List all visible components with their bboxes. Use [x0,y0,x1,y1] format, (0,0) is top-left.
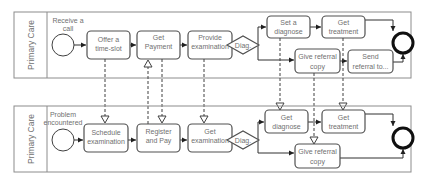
svg-text:Get: Get [338,19,349,26]
msg-arrowhead-schedule [101,116,109,123]
task-register-and-pay[interactable]: Register and Pay [137,124,180,152]
svg-text:Send: Send [362,53,378,60]
svg-text:copy: copy [310,158,325,166]
svg-text:Diag.: Diag. [235,42,251,50]
task-send-referral[interactable]: Send referral to... [348,50,393,73]
svg-text:examination: examination [191,43,229,50]
svg-text:Schedule: Schedule [91,129,120,136]
task-provide-examination[interactable]: Provide examination [188,31,232,59]
start-event-label-line2: call [63,25,74,32]
svg-text:Diag.: Diag. [235,137,251,145]
task-give-referral-copy[interactable]: Give referral copy [295,49,340,73]
svg-text:Get: Get [204,128,215,135]
task-get-examination[interactable]: Get examination [188,124,232,152]
end-event-top[interactable] [393,33,413,53]
svg-text:diagnose: diagnose [274,28,303,36]
svg-text:and Pay: and Pay [146,137,172,145]
svg-text:examination: examination [191,137,229,144]
flow-diag-to-getref [258,140,294,153]
svg-text:Payment: Payment [145,43,173,51]
task-offer-time-slot[interactable]: Offer a time-slot [87,31,130,59]
svg-text:Get: Get [338,114,349,121]
svg-text:Offer a: Offer a [98,36,119,43]
flow-getref-to-end [340,149,403,158]
svg-text:Get: Get [281,114,292,121]
task-give-referral-copy[interactable]: Give referral copy [295,144,340,168]
svg-text:Give referral: Give referral [298,53,337,60]
end-event-bottom[interactable] [393,128,413,148]
msg-arrowhead-register [158,116,166,123]
svg-text:treatment: treatment [329,28,359,35]
svg-text:Give referral: Give referral [298,148,337,155]
start-event-label-line1: Problem [50,111,76,118]
svg-text:Register: Register [145,128,172,136]
pool-top: Primary Care Receive a call Offer a time… [14,12,413,78]
task-set-a-diagnose[interactable]: Set a diagnose [267,16,310,38]
msg-arrowhead-getexam [200,116,208,123]
start-event-receive-call[interactable] [52,34,74,56]
svg-text:Set a: Set a [280,19,296,26]
start-event-label-line1: Receive a [52,17,83,24]
task-get-payment[interactable]: Get Payment [137,31,180,59]
task-get-treatment[interactable]: Get treatment [322,110,365,133]
task-get-treatment[interactable]: Get treatment [322,16,365,38]
svg-text:examination: examination [87,138,125,145]
bpmn-diagram: Primary Care Receive a call Offer a time… [0,0,435,183]
start-event-problem-encountered[interactable] [52,129,74,151]
svg-text:copy: copy [310,63,325,71]
svg-text:treatment: treatment [329,123,359,130]
msg-arrowhead-getref [310,137,318,144]
task-schedule-examination[interactable]: Schedule examination [84,124,128,152]
svg-text:referral to...: referral to... [353,63,389,70]
pool-bottom: Primary Care Problem encountered Schedul… [14,106,413,172]
flow-diag-to-getdiag [258,122,264,140]
pool-top-label: Primary Care [26,20,36,70]
pool-bottom-label: Primary Care [26,114,36,164]
svg-text:time-slot: time-slot [95,45,122,52]
svg-text:Provide: Provide [198,34,222,41]
flow-gettreat-to-end [365,114,393,126]
start-event-label-line2: encountered [44,119,83,126]
svg-text:diagnose: diagnose [272,123,301,131]
svg-text:Get: Get [153,34,164,41]
task-get-diagnose[interactable]: Get diagnose [265,110,308,133]
